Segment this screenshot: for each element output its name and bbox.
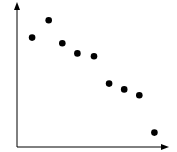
data-point [74,50,81,57]
y-axis [14,2,20,147]
data-point [91,53,98,60]
data-point [136,92,143,99]
x-axis-arrow-icon [161,144,169,150]
data-point [45,17,52,24]
data-points [29,17,158,136]
scatter-plot [0,0,177,152]
data-point [59,40,66,47]
y-axis-arrow-icon [14,2,20,10]
data-point [121,86,128,93]
data-point [151,129,158,136]
x-axis [17,144,169,150]
data-point [106,80,113,87]
data-point [29,34,36,41]
